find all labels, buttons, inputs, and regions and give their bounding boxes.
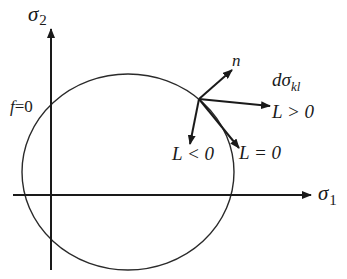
sigma1-label: σ1 [318, 181, 337, 208]
sigma2-label: σ2 [28, 2, 47, 28]
unloading-label: L < 0 [171, 143, 215, 164]
unloading-vector-arrow [190, 99, 199, 144]
loading-label: L > 0 [271, 101, 315, 122]
neutral-vector-arrow [199, 99, 239, 148]
neutral-loading-label: L = 0 [238, 142, 282, 163]
normal-label: n [232, 51, 241, 70]
stress-increment-label: dσkl [272, 69, 301, 94]
yield-function-label: f=0 [10, 97, 33, 116]
yield-surface-diagram: σ2 σ1 f=0 n dσkl L > 0 L = 0 L < 0 [0, 0, 347, 279]
loading-vector-arrow [199, 99, 270, 106]
normal-vector-arrow [199, 70, 232, 99]
